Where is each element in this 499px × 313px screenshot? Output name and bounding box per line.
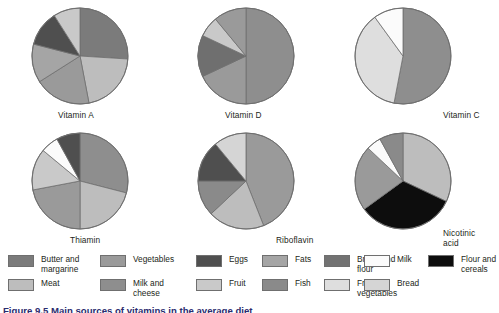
pie-slice	[80, 8, 128, 59]
legend-item-fish[interactable]: Fish	[262, 279, 311, 291]
legend-item-milk-and-cheese[interactable]: Milk and cheese	[100, 279, 164, 298]
legend-label-flour-and-cereals: Flour and cereals	[461, 255, 496, 274]
legend-item-flour-and-cereals[interactable]: Flour and cereals	[428, 255, 496, 274]
legend-swatch-fats	[262, 255, 288, 267]
legend-label-eggs: Eggs	[229, 255, 248, 265]
legend-label-meat: Meat	[41, 279, 59, 289]
pie-chart-nicotinic-acid	[353, 131, 453, 231]
pie-riboflavin-svg	[196, 131, 296, 231]
legend-item-butter-and-margarine[interactable]: Butter and margarine	[8, 255, 79, 274]
legend-label-milk: Milk	[397, 255, 412, 265]
pie-slice	[246, 8, 294, 104]
pie-thiamin-svg	[30, 131, 130, 231]
pie-nicotinic-acid-svg	[353, 131, 453, 231]
pie-label-nicotinic-acid: Nicotinic acid	[443, 228, 475, 248]
pie-label-thiamin: Thiamin	[70, 235, 100, 245]
legend-item-milk[interactable]: Milk	[364, 255, 412, 267]
chart-legend: Butter and margarine Meat Vegetables Mil…	[0, 252, 499, 302]
legend-swatch-eggs	[196, 255, 222, 267]
pie-label-vitamin-d: Vitamin D	[225, 110, 262, 120]
pie-chart-vitamin-d	[196, 6, 296, 106]
pie-vitamin-a-svg	[30, 6, 130, 106]
pie-chart-vitamin-a	[30, 6, 130, 106]
pie-chart-thiamin	[30, 131, 130, 231]
pie-chart-vitamin-c	[353, 6, 453, 106]
figure-caption: Figure 9.5 Main sources of vitamins in t…	[3, 305, 473, 313]
legend-swatch-bread-and-flour	[324, 255, 350, 267]
legend-item-eggs[interactable]: Eggs	[196, 255, 248, 267]
legend-item-vegetables[interactable]: Vegetables	[100, 255, 174, 267]
legend-swatch-fish	[262, 279, 288, 291]
legend-item-fats[interactable]: Fats	[262, 255, 311, 267]
legend-item-bread[interactable]: Bread	[364, 279, 419, 291]
legend-swatch-milk-and-cheese	[100, 279, 126, 291]
pie-label-vitamin-c: Vitamin C	[443, 110, 480, 120]
legend-swatch-fruit	[196, 279, 222, 291]
legend-item-fruit[interactable]: Fruit	[196, 279, 246, 291]
legend-label-fruit: Fruit	[229, 279, 246, 289]
legend-label-butter-and-margarine: Butter and margarine	[41, 255, 79, 274]
legend-swatch-milk	[364, 255, 390, 267]
legend-label-fish: Fish	[295, 279, 311, 289]
figure-pie-chart-grid: Vitamin A Vitamin D Vitamin C Thiamin Ri…	[0, 0, 499, 313]
legend-swatch-bread	[364, 279, 390, 291]
legend-label-vegetables: Vegetables	[133, 255, 174, 265]
legend-swatch-butter-and-margarine	[8, 255, 34, 267]
pie-chart-grid: Vitamin A Vitamin D Vitamin C Thiamin Ri…	[0, 0, 499, 250]
legend-swatch-fruit-and-vegetables	[324, 279, 350, 291]
legend-swatch-vegetables	[100, 255, 126, 267]
legend-label-bread: Bread	[397, 279, 419, 289]
legend-item-meat[interactable]: Meat	[8, 279, 59, 291]
legend-swatch-flour-and-cereals	[428, 255, 454, 267]
pie-vitamin-d-svg	[196, 6, 296, 106]
legend-label-fats: Fats	[295, 255, 311, 265]
pie-label-vitamin-a: Vitamin A	[58, 110, 94, 120]
pie-label-riboflavin: Riboflavin	[276, 235, 313, 245]
pie-chart-riboflavin	[196, 131, 296, 231]
legend-swatch-meat	[8, 279, 34, 291]
pie-vitamin-c-svg	[353, 6, 453, 106]
legend-label-milk-and-cheese: Milk and cheese	[133, 279, 164, 298]
